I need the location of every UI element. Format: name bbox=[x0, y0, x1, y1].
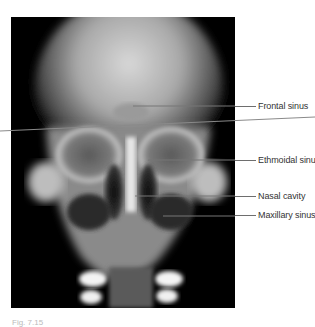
leader-frontal-sinus bbox=[235, 106, 256, 107]
leader-ethmoidal-sinus bbox=[235, 160, 256, 161]
label-maxillary-sinus: Maxillary sinus bbox=[258, 210, 315, 220]
figure: Frontal sinus Ethmoidal sinus Nasal cavi… bbox=[0, 0, 315, 327]
label-frontal-sinus: Frontal sinus bbox=[258, 101, 308, 111]
skull-xray-image bbox=[11, 17, 235, 308]
label-ethmoidal-sinus: Ethmoidal sinus bbox=[258, 155, 315, 165]
label-nasal-cavity: Nasal cavity bbox=[258, 191, 305, 201]
figure-caption: Fig. 7.15 bbox=[12, 318, 43, 327]
leader-nasal-cavity bbox=[235, 196, 256, 197]
leader-maxillary-sinus bbox=[235, 215, 256, 216]
